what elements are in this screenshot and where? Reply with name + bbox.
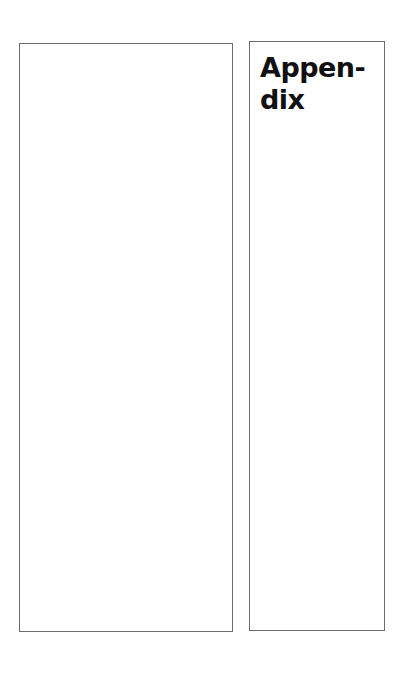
blank-content-panel [19, 43, 233, 632]
section-title: Appen- dix [260, 52, 380, 116]
section-tab-panel: Appen- dix [249, 41, 385, 631]
